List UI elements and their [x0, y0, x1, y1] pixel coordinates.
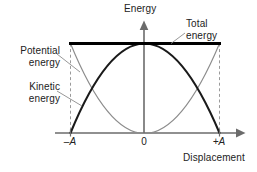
energy-displacement-figure: Energy Total energy Potential energy Kin…: [0, 0, 257, 172]
x-axis-arrowhead: [236, 129, 246, 138]
x-axis-label: Displacement: [183, 152, 245, 164]
kinetic-energy-curve: [71, 44, 220, 134]
annotation-kinetic-energy: Kinetic energy: [6, 81, 60, 104]
leader-line-total-energy: [171, 33, 185, 44]
x-tick-label-zero: 0: [134, 136, 154, 148]
annotation-potential-energy: Potential energy: [6, 45, 60, 68]
y-axis-label: Energy: [124, 3, 156, 15]
x-tick-label-minus-a: –A: [60, 136, 80, 148]
leader-line-kinetic-energy: [57, 91, 82, 106]
annotation-total-energy: Total energy: [186, 18, 217, 41]
x-tick-label-plus-a: +A: [209, 136, 229, 148]
y-axis-arrowhead: [140, 21, 149, 31]
